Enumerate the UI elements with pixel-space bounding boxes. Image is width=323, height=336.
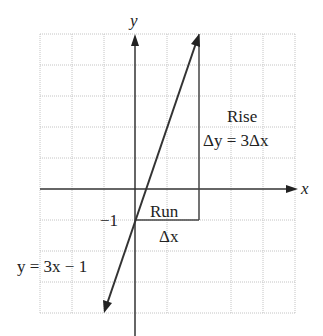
equation-label: y = 3x − 1 (17, 258, 87, 275)
x-axis-label: x (301, 180, 309, 197)
run-label: Run (150, 203, 178, 220)
run-formula: Δx (159, 228, 178, 245)
intercept-label: −1 (100, 212, 118, 229)
y-axis-arrow-icon (131, 34, 139, 46)
y-axis-label: y (130, 12, 138, 29)
line-arrow-up-icon (191, 34, 200, 47)
rise-label: Rise (227, 108, 257, 125)
x-axis-arrow-icon (286, 185, 298, 193)
graph (0, 0, 323, 336)
rise-formula: Δy = 3Δx (203, 132, 268, 149)
line-arrow-down-icon (103, 300, 112, 313)
function-line (107, 43, 196, 304)
